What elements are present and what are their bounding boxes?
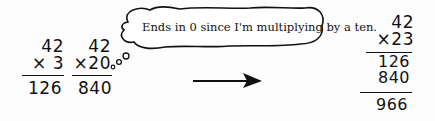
- result: 42 ×23: [372, 14, 414, 48]
- problem2-multiplier: ×20: [67, 55, 111, 72]
- result-sum: 966: [368, 95, 408, 114]
- thought-dot-small: [111, 65, 115, 69]
- result-rule-2: [360, 92, 412, 93]
- problem1-multiplier: × 3: [22, 55, 64, 72]
- multiplication-diagram: Ends in 0 since I'm multiplying by a ten…: [0, 0, 435, 121]
- thought-dot-medium: [117, 60, 122, 65]
- problem2-rule: [72, 75, 112, 76]
- problem1: 42 × 3: [22, 38, 64, 72]
- problem1-product: 126: [22, 78, 62, 98]
- result-partial-products: 126 840: [368, 54, 410, 86]
- problem1-rule: [22, 75, 64, 76]
- thought-dot-large: [123, 53, 129, 59]
- thought-bubble-text: Ends in 0 since I'm multiplying by a ten…: [142, 20, 377, 34]
- problem2-product: 840: [72, 78, 112, 98]
- problem2: 42 ×20: [67, 38, 111, 72]
- result-partial2: 840: [368, 70, 410, 86]
- result-multiplier: ×23: [372, 31, 414, 48]
